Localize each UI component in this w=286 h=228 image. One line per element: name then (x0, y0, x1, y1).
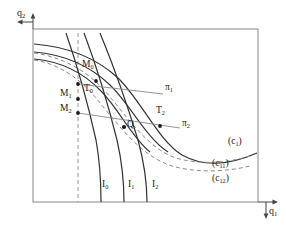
label-T0: T0 (84, 83, 93, 94)
label-I1: I1 (128, 179, 134, 190)
point-T2 (158, 124, 162, 128)
label-M0-sub: 0 (90, 63, 93, 70)
label-pi2-sub: 2 (187, 122, 190, 129)
label-c12-end: ) (226, 173, 229, 183)
label-c11: (c11) (212, 158, 229, 169)
label-I2-sub: 2 (155, 183, 158, 190)
point-M0 (76, 82, 80, 86)
y-axis-label: q2 (17, 7, 25, 19)
label-c1-end: ) (239, 136, 242, 146)
point-Q (122, 125, 126, 129)
diagram-svg (0, 0, 286, 228)
point-M2 (76, 111, 80, 115)
label-M1-sub: 1 (68, 92, 71, 99)
label-I0-sub: 0 (105, 183, 108, 190)
label-T0-sub: 0 (90, 87, 93, 94)
label-I2: I2 (152, 179, 158, 190)
label-c12: (c12) (212, 173, 229, 184)
label-I1-sub: 1 (131, 183, 134, 190)
point-T0 (94, 79, 98, 83)
label-pi1: π1 (165, 82, 173, 93)
label-M1: M1 (60, 88, 72, 99)
x-axis-label: q1 (269, 205, 277, 217)
label-Q-text: Q (127, 119, 134, 129)
label-pi1-sub: 1 (170, 86, 173, 93)
label-T2: T2 (156, 105, 165, 116)
curve-c1-lower (34, 59, 150, 152)
label-M2: M2 (60, 103, 72, 114)
label-Q: Q (127, 119, 134, 130)
figure-canvas: q2 q1 M0 T0 M1 M2 Q π1 T2 π2 (c1) (c11) (0, 0, 286, 228)
x-axis-down-arrowhead (264, 214, 269, 220)
label-I0: I0 (102, 179, 108, 190)
curve-c1-middle (34, 52, 168, 152)
label-pi2: π2 (182, 118, 190, 129)
label-M0: M0 (82, 59, 94, 70)
y-axis-arrowhead (31, 13, 36, 19)
label-M2-sub: 2 (68, 107, 71, 114)
label-T2-sub: 2 (162, 109, 165, 116)
point-M1 (76, 97, 80, 101)
label-c11-end: ) (225, 158, 228, 168)
label-c1: (c1) (228, 136, 242, 147)
x-axis-arrowhead (273, 200, 279, 205)
x-axis-label-sub: 1 (274, 210, 277, 217)
y-axis-left-arrowhead (17, 20, 23, 25)
y-axis-label-sub: 2 (22, 12, 25, 19)
